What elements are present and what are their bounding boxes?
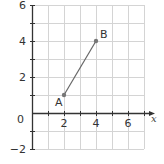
x-tick-label: 6	[125, 117, 132, 130]
y-tick-label: 4	[19, 35, 26, 48]
point-label-b: B	[100, 28, 108, 41]
x-axis-label: x	[151, 113, 157, 124]
x-tick-label: 4	[93, 117, 100, 130]
y-tick-label: −2	[10, 143, 26, 156]
origin-label: 0	[17, 113, 24, 126]
y-tick-label: 2	[19, 71, 26, 84]
coordinate-plot: x246−22460AB	[0, 0, 164, 164]
y-tick-label: 6	[19, 0, 26, 12]
point-label-a: A	[55, 96, 63, 109]
point-b	[94, 39, 98, 43]
x-tick-label: 2	[61, 117, 68, 130]
